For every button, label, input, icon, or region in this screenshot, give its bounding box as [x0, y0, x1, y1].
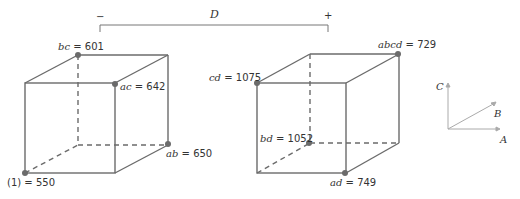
- cube-plus: [257, 54, 399, 173]
- vertex-ab: [165, 141, 171, 147]
- label-ab: ab = 650: [166, 149, 212, 159]
- axis-b-label: B: [494, 108, 501, 119]
- label-abcd: abcd = 729: [378, 40, 436, 50]
- vertex-ad: [342, 170, 348, 176]
- label-bc: bc = 601: [58, 42, 104, 52]
- axis-a-label: A: [500, 134, 507, 145]
- axes-icon: [446, 83, 500, 131]
- factor-d-label: D: [210, 9, 219, 20]
- label-bd: bd = 1052: [260, 134, 313, 144]
- diagram-canvas: [0, 0, 520, 199]
- label-ad: ad = 749: [330, 178, 376, 188]
- label-ac: ac = 642: [120, 82, 165, 92]
- minus-label: −: [96, 12, 104, 22]
- vertex-1: [22, 170, 28, 176]
- factor-d-bracket: [100, 25, 328, 32]
- cube-minus: [25, 55, 168, 173]
- plus-label: +: [324, 11, 332, 21]
- vertex-bc: [75, 52, 81, 58]
- vertex-ac: [112, 81, 118, 87]
- label-1: (1) = 550: [7, 178, 55, 188]
- label-cd: cd = 1075: [209, 73, 261, 83]
- axis-c-label: C: [436, 81, 444, 92]
- vertex-abcd: [395, 51, 401, 57]
